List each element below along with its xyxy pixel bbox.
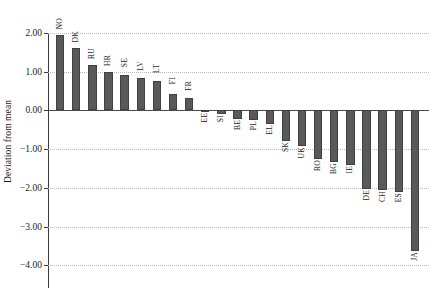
y-tick-label: 1.00 (25, 67, 42, 77)
bar-label-SE: SE (121, 58, 129, 67)
bar-label-BG: BG (330, 163, 338, 174)
bar-LT[interactable] (153, 81, 161, 110)
y-tick-label: −3.00 (20, 222, 42, 232)
bar-label-CH: CH (379, 191, 387, 202)
bar-FR[interactable] (185, 98, 193, 111)
y-tick-label: 0.00 (25, 105, 42, 115)
bar-LV[interactable] (137, 78, 145, 110)
bar-CH[interactable] (378, 110, 386, 190)
gridline--3.00 (48, 227, 429, 228)
y-tick-label: −2.00 (20, 183, 42, 193)
gridline--4.00 (48, 265, 429, 266)
bar-label-IE: IE (346, 166, 354, 174)
bar-label-EL: EL (266, 125, 274, 135)
bar-label-SK: SK (282, 142, 290, 152)
plot-area: 2.001.000.00−1.00−2.00−3.00−4.00 NODKRUH… (48, 12, 429, 274)
bar-NO[interactable] (56, 35, 64, 110)
bar-label-JA: JA (411, 252, 419, 261)
bar-label-FI: FI (169, 77, 177, 84)
bar-label-DE: DE (363, 190, 371, 201)
bar-DE[interactable] (362, 110, 370, 188)
bar-label-LT: LT (153, 64, 161, 73)
bar-RO[interactable] (314, 110, 322, 159)
bar-UK[interactable] (298, 110, 306, 146)
bar-BE[interactable] (233, 110, 241, 119)
bar-RU[interactable] (88, 65, 96, 111)
bar-IE[interactable] (346, 110, 354, 165)
bar-SE[interactable] (120, 75, 128, 110)
bar-label-NO: NO (56, 18, 64, 29)
bar-label-LV: LV (137, 61, 145, 71)
bar-BG[interactable] (330, 110, 338, 161)
bar-label-ES: ES (395, 193, 403, 202)
bar-ES[interactable] (395, 110, 403, 191)
gridline--1.00 (48, 149, 429, 150)
bar-PL[interactable] (249, 110, 257, 120)
bar-FI[interactable] (169, 94, 177, 110)
y-axis-title: Deviation from mean (0, 0, 16, 283)
bar-label-BE: BE (234, 120, 242, 130)
bar-label-RU: RU (88, 48, 96, 59)
gridline-2.00 (48, 33, 429, 34)
y-tick-label: 2.00 (25, 28, 42, 38)
bar-label-PL: PL (250, 121, 258, 130)
bar-label-FR: FR (185, 81, 193, 91)
bar-JA[interactable] (411, 110, 419, 250)
bar-EL[interactable] (266, 110, 274, 123)
bar-label-EE: EE (201, 113, 209, 123)
y-tick-label: −1.00 (20, 144, 42, 154)
y-tick-label: −4.00 (20, 260, 42, 270)
gridline--2.00 (48, 188, 429, 189)
bar-label-UK: UK (298, 147, 306, 158)
bar-label-RO: RO (314, 160, 322, 171)
bar-label-SI: SI (217, 115, 225, 122)
bar-SI[interactable] (217, 110, 225, 113)
bar-label-DK: DK (72, 31, 80, 42)
bar-HR[interactable] (104, 72, 112, 111)
bar-SK[interactable] (282, 110, 290, 140)
bar-label-HR: HR (104, 55, 112, 66)
bar-DK[interactable] (72, 48, 80, 110)
